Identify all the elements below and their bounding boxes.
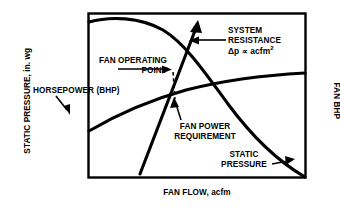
diagram-canvas	[0, 0, 340, 207]
secondary-y-axis-label: FAN BHP	[331, 31, 340, 171]
y-axis-label: STATIC PRESSURE, in. wg	[23, 21, 33, 181]
annotation-fan-operating-point-line2: POINT	[55, 66, 167, 76]
fan-performance-diagram: STATIC PRESSURE, in. wg FAN BHP FAN FLOW…	[0, 0, 340, 207]
annotation-static-pressure-line1: STATIC	[216, 150, 272, 160]
annotation-static-pressure-line2: PRESSURE	[216, 160, 272, 170]
annotation-static-pressure: STATIC PRESSURE	[216, 150, 272, 169]
annotation-system-resistance-formula-exponent: 2	[270, 45, 273, 51]
annotation-fan-operating-point: FAN OPERATING POINT	[55, 56, 167, 75]
annotation-horsepower: HORSEPOWER (BHP)	[33, 86, 120, 96]
annotation-system-resistance: SYSTEM RESISTANCE Δp ∝ acfm2	[228, 26, 281, 56]
annotation-fan-operating-point-line1: FAN OPERATING	[55, 56, 167, 66]
annotation-fan-power-requirement-line2: REQUIREMENT	[168, 132, 242, 142]
annotation-system-resistance-formula-base: Δp ∝ acfm	[228, 46, 270, 56]
annotation-fan-power-requirement-line1: FAN POWER	[168, 122, 242, 132]
horsepower-arrowhead	[64, 104, 70, 115]
annotation-system-resistance-formula: Δp ∝ acfm2	[228, 46, 281, 56]
annotation-system-resistance-line1: SYSTEM	[228, 26, 281, 36]
annotation-fan-power-requirement: FAN POWER REQUIREMENT	[168, 122, 242, 141]
x-axis-label: FAN FLOW, acfm	[88, 188, 306, 198]
